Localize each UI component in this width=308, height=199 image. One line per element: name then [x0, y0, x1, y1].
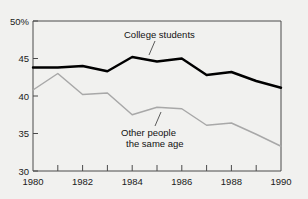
chart-figure: 50% 45 40 35 30 1980 1982 1984 1986 1988…	[0, 0, 308, 199]
y-tick-label-40: 40	[18, 91, 29, 102]
annotation-other-people-line1: Other people	[121, 127, 176, 138]
x-tick-label-1980: 1980	[22, 176, 43, 187]
x-tick-label-1988: 1988	[221, 176, 242, 187]
y-tick-label-35: 35	[18, 128, 29, 139]
x-tick-label-1990: 1990	[270, 176, 291, 187]
y-tick-label-50: 50%	[10, 16, 30, 27]
annotation-other-people-line2: the same age	[126, 138, 184, 149]
x-tick-label-1984: 1984	[122, 176, 143, 187]
x-tick-label-1986: 1986	[171, 176, 192, 187]
y-tick-label-30: 30	[18, 166, 29, 177]
annotation-college-students: College students	[124, 29, 195, 40]
line-chart: 50% 45 40 35 30 1980 1982 1984 1986 1988…	[0, 0, 308, 199]
y-tick-label-45: 45	[18, 53, 29, 64]
x-tick-label-1982: 1982	[72, 176, 93, 187]
